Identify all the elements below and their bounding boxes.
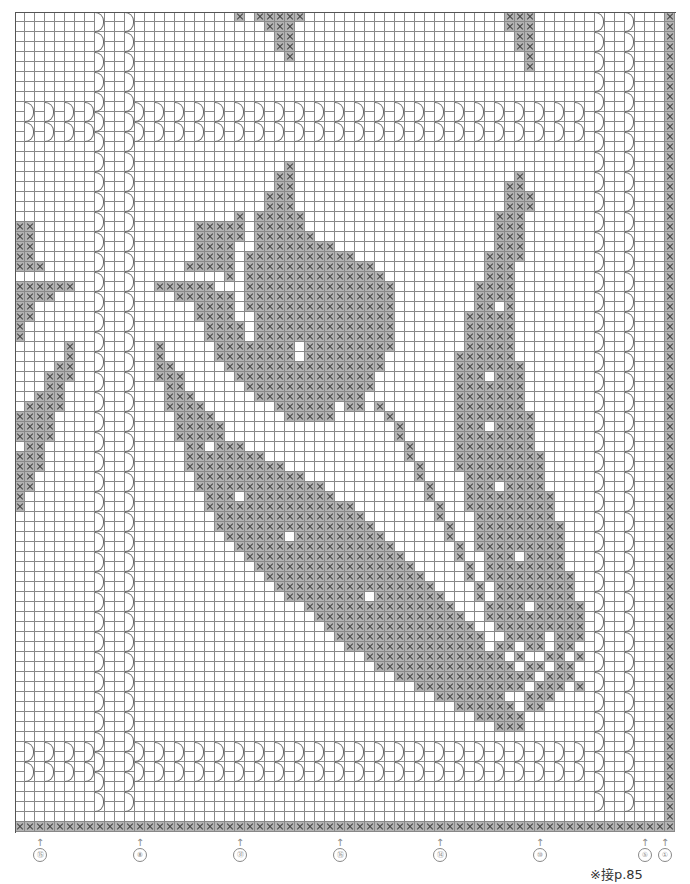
open-cell xyxy=(195,592,205,602)
open-cell xyxy=(405,32,415,42)
open-cell xyxy=(25,162,35,172)
open-cell xyxy=(345,32,355,42)
open-cell xyxy=(495,62,505,72)
open-cell xyxy=(365,112,375,122)
filled-cell xyxy=(555,552,565,562)
filled-cell xyxy=(205,452,215,462)
filled-cell xyxy=(205,222,215,232)
open-cell xyxy=(645,692,655,702)
open-cell xyxy=(445,52,455,62)
filled-cell xyxy=(665,662,675,672)
open-cell xyxy=(215,92,225,102)
open-cell xyxy=(75,152,85,162)
open-cell xyxy=(405,532,415,542)
open-cell xyxy=(35,102,45,112)
open-cell xyxy=(155,262,165,272)
open-cell xyxy=(305,42,315,52)
open-cell xyxy=(195,332,205,342)
filled-cell xyxy=(245,462,255,472)
open-cell xyxy=(535,422,545,432)
open-cell xyxy=(205,672,215,682)
filled-cell xyxy=(595,822,605,832)
filled-cell xyxy=(235,452,245,462)
filled-cell xyxy=(205,332,215,342)
filled-cell xyxy=(665,582,675,592)
open-cell xyxy=(445,92,455,102)
filled-cell xyxy=(365,262,375,272)
filled-cell xyxy=(235,482,245,492)
open-cell xyxy=(655,422,665,432)
open-cell xyxy=(615,162,625,172)
open-cell xyxy=(105,692,115,702)
open-cell xyxy=(205,532,215,542)
open-cell xyxy=(225,142,235,152)
open-cell xyxy=(155,402,165,412)
filled-cell xyxy=(275,582,285,592)
open-cell xyxy=(465,522,475,532)
open-cell xyxy=(445,512,455,522)
filled-cell xyxy=(265,502,275,512)
open-cell xyxy=(185,322,195,332)
filled-cell xyxy=(285,392,295,402)
open-cell xyxy=(175,72,185,82)
filled-cell xyxy=(435,642,445,652)
open-cell xyxy=(615,732,625,742)
open-cell xyxy=(35,752,45,762)
filled-cell xyxy=(505,392,515,402)
open-cell xyxy=(445,792,455,802)
filled-cell xyxy=(525,202,535,212)
filled-cell xyxy=(665,52,675,62)
filled-cell xyxy=(225,462,235,472)
open-cell xyxy=(105,162,115,172)
open-cell xyxy=(135,702,145,712)
arrow-up-icon: ↑ xyxy=(30,838,50,848)
open-cell xyxy=(15,752,25,762)
filled-cell xyxy=(525,522,535,532)
open-cell xyxy=(265,762,275,772)
open-cell xyxy=(315,212,325,222)
open-cell xyxy=(235,422,245,432)
open-cell xyxy=(545,462,555,472)
filled-cell xyxy=(345,292,355,302)
filled-cell xyxy=(485,382,495,392)
open-cell xyxy=(605,322,615,332)
open-cell xyxy=(615,182,625,192)
filled-cell xyxy=(455,462,465,472)
open-cell xyxy=(485,182,495,192)
open-cell xyxy=(545,62,555,72)
open-cell xyxy=(75,452,85,462)
open-cell xyxy=(405,542,415,552)
open-cell xyxy=(385,702,395,712)
open-cell xyxy=(425,382,435,392)
open-cell xyxy=(385,722,395,732)
open-cell xyxy=(385,372,395,382)
open-cell xyxy=(45,792,55,802)
open-cell xyxy=(565,242,575,252)
open-cell xyxy=(295,612,305,622)
filled-cell xyxy=(665,472,675,482)
open-cell xyxy=(305,152,315,162)
filled-cell xyxy=(465,702,475,712)
filled-cell xyxy=(535,452,545,462)
open-cell xyxy=(275,602,285,612)
open-cell xyxy=(385,732,395,742)
open-cell xyxy=(65,452,75,462)
open-cell xyxy=(75,52,85,62)
filled-cell xyxy=(335,632,345,642)
open-cell xyxy=(155,612,165,622)
filled-cell xyxy=(245,472,255,482)
open-cell xyxy=(405,312,415,322)
open-cell xyxy=(85,142,95,152)
open-cell xyxy=(135,672,145,682)
open-cell xyxy=(225,582,235,592)
filled-cell xyxy=(665,332,675,342)
open-cell xyxy=(315,12,325,22)
open-cell xyxy=(45,252,55,262)
open-cell xyxy=(295,462,305,472)
open-cell xyxy=(615,612,625,622)
filled-cell xyxy=(365,532,375,542)
open-cell xyxy=(425,22,435,32)
filled-cell xyxy=(25,292,35,302)
open-cell xyxy=(35,772,45,782)
open-cell xyxy=(195,562,205,572)
